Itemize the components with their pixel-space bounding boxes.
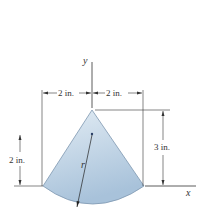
radius-arrowhead [77, 201, 80, 207]
height-label: 3 in. [154, 142, 170, 152]
centroid-height-label: 2 in. [9, 155, 25, 165]
centroid-point [91, 133, 93, 135]
right-width-label: 2 in. [106, 88, 122, 98]
centroid-height-dimension: 2 in. [9, 135, 25, 185]
height-dimension: 3 in. [154, 111, 170, 185]
right-width-dimension: 2 in. [93, 88, 142, 98]
left-width-label: 2 in. [58, 88, 74, 98]
left-width-dimension: 2 in. [43, 88, 91, 98]
sector-shape [43, 110, 144, 204]
y-axis-label: y [82, 55, 88, 66]
radius-label: r [81, 159, 85, 170]
sector-diagram: 2 in. 2 in. 3 in. 2 in. y x r [0, 0, 204, 213]
x-axis-label: x [185, 187, 191, 198]
